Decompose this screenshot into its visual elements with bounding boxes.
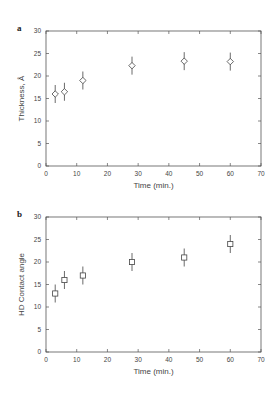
- x-tick-label: 0: [44, 356, 48, 363]
- x-tick-label: 70: [257, 170, 265, 177]
- panel-a: a 010203040506070051015202530Time (min.)…: [0, 0, 278, 195]
- data-point-square: [182, 255, 187, 260]
- data-point-diamond: [61, 89, 67, 95]
- x-tick-label: 60: [227, 170, 235, 177]
- x-tick-label: 20: [104, 170, 112, 177]
- data-point-diamond: [181, 58, 187, 64]
- y-tick-label: 15: [34, 281, 42, 288]
- chart-b: 010203040506070051015202530Time (min.)HD…: [0, 195, 278, 397]
- x-tick-label: 20: [104, 356, 112, 363]
- x-tick-label: 60: [227, 356, 235, 363]
- data-point-diamond: [52, 91, 58, 97]
- y-tick-label: 25: [34, 236, 42, 243]
- y-axis-label: HD Contact angle: [17, 252, 26, 316]
- y-tick-label: 30: [34, 213, 42, 220]
- data-point-diamond: [129, 62, 135, 68]
- x-tick-label: 40: [165, 356, 173, 363]
- data-point-square: [62, 277, 67, 282]
- y-tick-label: 30: [34, 27, 42, 34]
- data-point-square: [80, 273, 85, 278]
- y-tick-label: 5: [37, 326, 41, 333]
- x-tick-label: 50: [196, 356, 204, 363]
- panel-label-b: b: [17, 209, 22, 219]
- panel-label-a: a: [17, 23, 22, 33]
- y-tick-label: 15: [34, 95, 42, 102]
- chart-a: 010203040506070051015202530Time (min.)Th…: [0, 0, 278, 195]
- x-tick-label: 0: [44, 170, 48, 177]
- x-tick-label: 10: [73, 170, 81, 177]
- data-point-diamond: [80, 77, 86, 83]
- y-axis-label: Thickness, Å: [17, 75, 26, 121]
- x-tick-label: 30: [135, 356, 143, 363]
- plot-frame: [46, 31, 261, 166]
- x-tick-label: 50: [196, 170, 204, 177]
- x-axis-label: Time (min.): [133, 181, 173, 190]
- plot-frame: [46, 217, 261, 352]
- y-tick-label: 25: [34, 50, 42, 57]
- y-tick-label: 0: [37, 348, 41, 355]
- x-tick-label: 10: [73, 356, 81, 363]
- y-tick-label: 20: [34, 72, 42, 79]
- data-point-square: [53, 291, 58, 296]
- x-axis-label: Time (min.): [133, 367, 173, 376]
- y-tick-label: 10: [34, 117, 42, 124]
- y-tick-label: 10: [34, 303, 42, 310]
- y-tick-label: 20: [34, 258, 42, 265]
- y-tick-label: 0: [37, 162, 41, 169]
- data-point-square: [228, 241, 233, 246]
- panel-b: b 010203040506070051015202530Time (min.)…: [0, 195, 278, 397]
- data-point-square: [129, 259, 134, 264]
- x-tick-label: 70: [257, 356, 265, 363]
- data-point-diamond: [227, 58, 233, 64]
- x-tick-label: 40: [165, 170, 173, 177]
- x-tick-label: 30: [135, 170, 143, 177]
- y-tick-label: 5: [37, 140, 41, 147]
